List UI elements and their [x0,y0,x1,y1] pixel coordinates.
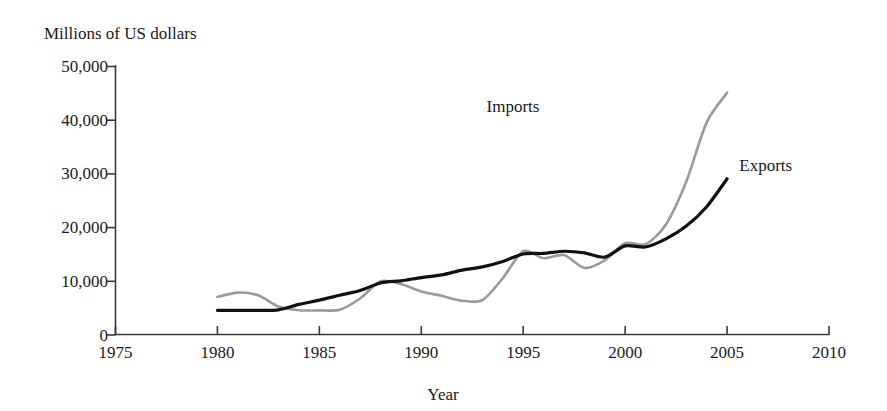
series-label-exports: Exports [739,156,792,175]
series-label-imports: Imports [487,97,540,116]
y-axis-title: Millions of US dollars [44,24,197,43]
y-tick-label: 50,000 [61,57,108,76]
y-tick-label: 40,000 [61,111,108,130]
y-tick-label: 0 [100,326,109,345]
x-tick-label: 2010 [812,343,846,362]
x-tick-label: 1975 [99,343,133,362]
x-tick-label: 1995 [506,343,540,362]
x-tick-label: 2000 [608,343,642,362]
y-tick-label: 20,000 [61,218,108,237]
x-tick-label: 1990 [404,343,438,362]
chart-background [0,0,887,411]
x-tick-label: 1985 [302,343,336,362]
x-tick-label: 2005 [710,343,744,362]
y-tick-label: 30,000 [61,164,108,183]
y-tick-label: 10,000 [61,272,108,291]
x-axis-title: Year [427,385,459,404]
x-tick-label: 1980 [200,343,234,362]
chart-figure: Millions of US dollars 010,00020,00030,0… [0,0,887,411]
